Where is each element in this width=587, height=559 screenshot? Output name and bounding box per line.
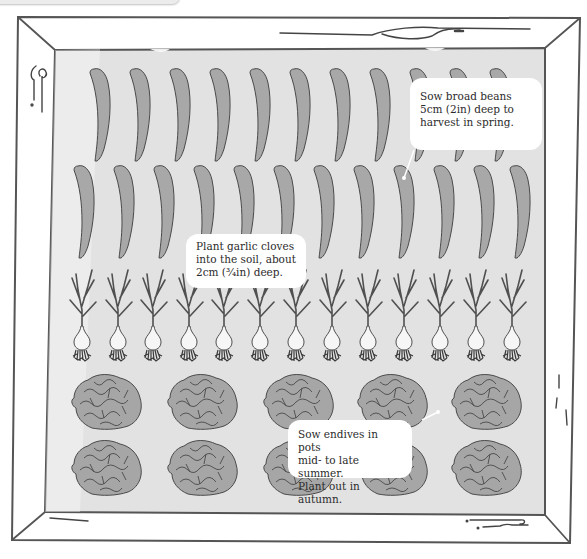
callout-garlic: Plant garlic cloves into the soil, about… xyxy=(186,234,306,288)
callout-broad-beans: Sow broad beans 5cm (2in) deep to harves… xyxy=(410,78,542,150)
callout-endives: Sow endives in pots mid- to late summer.… xyxy=(288,420,412,478)
